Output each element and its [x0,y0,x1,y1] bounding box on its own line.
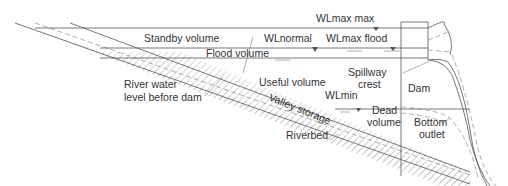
label-dam: Dam [408,82,430,94]
label-river-water: River water [124,78,178,90]
wl-max-max-marker [373,27,379,31]
wl-normal-marker [312,47,318,52]
label-riverbed: Riverbed [286,129,328,141]
label-dead-volume: Dead [372,104,397,116]
label-spillway-crest-2: crest [358,78,381,90]
label-flood-volume: Flood volume [206,47,269,59]
label-wl-min: WLmin [325,89,358,101]
label-wl-max-max: WLmax max [316,12,375,24]
label-spillway-crest: Spillway [348,66,387,78]
label-wl-max-flood: WLmax flood [326,32,387,44]
wl-min-marker [356,108,361,112]
label-useful-volume: Useful volume [259,76,326,88]
label-wl-normal: WLnormal [264,32,312,44]
wl-max-flood-marker [390,47,396,51]
label-dead-volume-2: volume [367,116,401,128]
label-standby-volume: Standby volume [144,32,219,44]
label-river-water-2: level before dam [124,91,202,103]
dam-reservoir-diagram: WLmax max WLnormal WLmax flood Standby v… [0,0,508,186]
label-bottom-outlet-2: outlet [419,128,445,140]
label-bottom-outlet: Bottom [414,116,448,128]
